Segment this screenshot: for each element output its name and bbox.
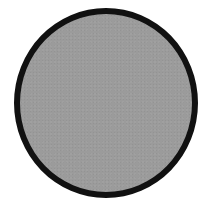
canvas bbox=[0, 0, 213, 206]
gray-circle-shape bbox=[14, 8, 198, 198]
